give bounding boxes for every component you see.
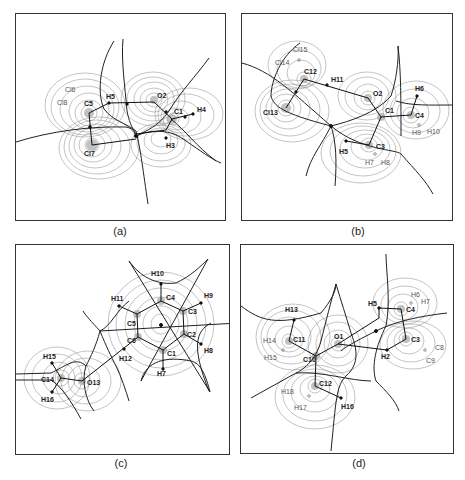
- atom-label-h2: H2: [381, 353, 390, 360]
- atom-label-c10: C10: [303, 356, 316, 363]
- atom-label-h8: H8: [204, 347, 213, 354]
- atom-label-h5: H5: [368, 300, 377, 307]
- atom-label-h11: H11: [331, 76, 344, 83]
- caption-d: (d): [339, 457, 379, 469]
- atom-label-h10: H10: [151, 270, 164, 277]
- contour-plot-b: Cl15 Cl14 C12 H11 O2 H6 Cl13 C1 C4 H9 H1…: [242, 14, 453, 221]
- atom-label-h8: H8: [381, 159, 390, 166]
- panel-d: H6 H7 H5 C4 H13 C11 O1 C3 H14 C8 C10 H15…: [240, 244, 454, 454]
- atom-label-h7: H7: [157, 370, 166, 377]
- contour-plot-d: H6 H7 H5 C4 H13 C11 O1 C3 H14 C8 C10 H15…: [241, 245, 454, 454]
- caption-a: (a): [100, 225, 140, 237]
- atom-label-h4: H4: [197, 106, 206, 113]
- atom-label-c5: C5: [127, 320, 136, 327]
- atom-label-h18: H18: [281, 388, 294, 395]
- atom-label-h13: H13: [285, 306, 298, 313]
- atom-label-c1: C1: [167, 350, 176, 357]
- atom-label-c11: C11: [293, 336, 306, 343]
- atom-label-c5: C5: [84, 100, 93, 107]
- atom-label-h6: H6: [415, 85, 424, 92]
- contour-plot-a: Cl6 Cl8 C5 H5 O2 C1 H4 Cl7 H3: [16, 14, 226, 221]
- atom-label-h5: H5: [339, 148, 348, 155]
- panel-b: Cl15 Cl14 C12 H11 O2 H6 Cl13 C1 C4 H9 H1…: [241, 13, 453, 221]
- zero-flux-surface: [16, 127, 221, 163]
- atom-label-h16: H16: [41, 396, 54, 403]
- atom-label-c3: C3: [411, 336, 420, 343]
- atom-label-cl8: Cl8: [57, 99, 68, 106]
- atom-label-h7: H7: [421, 298, 430, 305]
- atom-label-c12: C12: [319, 380, 332, 387]
- atom-label-c4: C4: [406, 306, 415, 313]
- atom-label-h12: H12: [119, 355, 132, 362]
- contour-plot-c: H10 C4 H9 H11 C5 C3 C6 C2 H8 H12 C1 H7 H…: [16, 245, 230, 455]
- atom-label-cl7: Cl7: [84, 150, 95, 157]
- atom-label-h15: H15: [43, 353, 56, 360]
- atom-label-h15: H15: [264, 354, 277, 361]
- atom-label-h9: H9: [412, 129, 421, 136]
- atom-label-c4: C4: [166, 294, 175, 301]
- atom-label-c3: C3: [188, 308, 197, 315]
- atom-label-cl15: Cl15: [293, 46, 308, 53]
- atom-label-o2: O2: [157, 92, 166, 99]
- caption-c: (c): [101, 457, 141, 469]
- atom-label-c3: C3: [376, 143, 385, 150]
- atom-label-h9: H9: [204, 292, 213, 299]
- atom-label-cl14: Cl14: [275, 59, 290, 66]
- atom-label-h11: H11: [111, 295, 124, 302]
- atom-label-c8: C8: [435, 344, 444, 351]
- atom-label-h6: H6: [411, 291, 420, 298]
- atom-label-cl6: Cl6: [65, 86, 76, 93]
- atom-label-o1: O1: [334, 333, 343, 340]
- caption-b: (b): [338, 225, 378, 237]
- panel-c: H10 C4 H9 H11 C5 C3 C6 C2 H8 H12 C1 H7 H…: [15, 244, 230, 455]
- atom-label-c1: C1: [174, 108, 183, 115]
- atom-label-c6: C6: [127, 337, 136, 344]
- atom-label-c4: C4: [415, 112, 424, 119]
- atom-label-c12: C12: [304, 68, 317, 75]
- atom-label-c1: C1: [385, 107, 394, 114]
- atom-label-h10: H10: [427, 128, 440, 135]
- atom-label-h3: H3: [166, 142, 175, 149]
- atom-label-c2: C2: [187, 331, 196, 338]
- atom-label-cl13: Cl13: [263, 109, 278, 116]
- panel-a: Cl6 Cl8 C5 H5 O2 C1 H4 Cl7 H3: [15, 13, 226, 221]
- atom-label-h7: H7: [365, 159, 374, 166]
- atom-label-o13: O13: [87, 379, 100, 386]
- atom-label-h17: H17: [294, 404, 307, 411]
- atom-label-o2: O2: [373, 90, 382, 97]
- atom-label-h5: H5: [106, 93, 115, 100]
- atom-label-h14: H14: [263, 337, 276, 344]
- atom-label-c14: C14: [41, 376, 54, 383]
- atom-label-c9: C9: [426, 357, 435, 364]
- atom-label-h16: H16: [341, 403, 354, 410]
